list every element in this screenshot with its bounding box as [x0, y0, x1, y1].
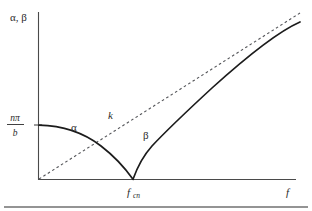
asymptote-line-k: [39, 13, 300, 179]
y-tick-denominator: b: [13, 128, 18, 138]
asymptote-label-k: k: [108, 109, 114, 121]
dispersion-plot: α, β f nπ b f cn α β k: [0, 0, 312, 211]
x-tick-label-base: f: [127, 186, 132, 198]
y-axis-label: α, β: [10, 11, 27, 23]
figure-container: α, β f nπ b f cn α β k: [0, 0, 312, 211]
alpha-curve: [39, 125, 133, 179]
alpha-curve-label: α: [71, 121, 77, 133]
beta-curve-label: β: [143, 129, 149, 141]
x-axis-label: f: [286, 186, 291, 198]
beta-curve: [133, 22, 300, 179]
x-tick-label-subscript: cn: [133, 191, 140, 200]
y-tick-numerator: nπ: [10, 113, 20, 123]
